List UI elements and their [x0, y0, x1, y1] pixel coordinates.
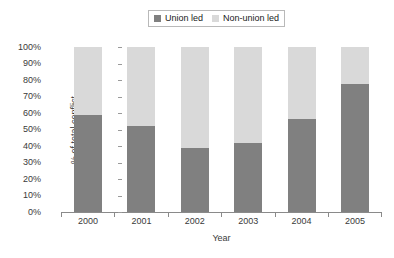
y-tick	[118, 80, 122, 81]
chart-figure: Union led Non-union led % of total confl…	[0, 0, 394, 258]
bar-segment-non-union-led	[234, 47, 262, 143]
bar-segment-union-led	[341, 84, 369, 212]
bar-segment-non-union-led	[181, 47, 209, 148]
bar-group	[181, 47, 209, 212]
y-tick-label: 10%	[1, 191, 41, 200]
y-tick-label: 40%	[1, 142, 41, 151]
y-tick	[118, 64, 122, 65]
y-tick	[118, 146, 122, 147]
bar-segment-non-union-led	[288, 47, 316, 119]
y-tick	[118, 163, 122, 164]
legend-item-union-led: Union led	[154, 14, 203, 23]
bar-segment-union-led	[288, 119, 316, 212]
legend-label-union-led: Union led	[165, 14, 203, 23]
x-axis-title: Year	[61, 233, 382, 243]
bar-group	[341, 47, 369, 212]
y-tick	[118, 179, 122, 180]
y-tick-label: 100%	[1, 43, 41, 52]
bar-segment-union-led	[127, 126, 155, 212]
y-tick-label: 50%	[1, 125, 41, 134]
x-tick-label: 2005	[328, 217, 382, 226]
bar-segment-non-union-led	[341, 47, 369, 84]
x-tick-label: 2000	[61, 217, 115, 226]
legend-item-non-union-led: Non-union led	[212, 14, 279, 23]
bar-segment-union-led	[74, 115, 102, 212]
bar-segment-non-union-led	[74, 47, 102, 115]
bar-group	[234, 47, 262, 212]
y-tick	[118, 212, 122, 213]
y-tick-label: 90%	[1, 59, 41, 68]
x-tick-label: 2002	[168, 217, 222, 226]
y-tick-label: 30%	[1, 158, 41, 167]
x-tick-label: 2003	[221, 217, 275, 226]
y-tick-label: 60%	[1, 109, 41, 118]
y-tick-label: 0%	[1, 208, 41, 217]
y-tick-label: 70%	[1, 92, 41, 101]
bar-group	[74, 47, 102, 212]
legend-swatch-non-union-led	[212, 15, 219, 22]
plot-area: % of total conflict 0%10%20%30%40%50%60%…	[61, 47, 381, 212]
y-tick	[118, 113, 122, 114]
bar-group	[127, 47, 155, 212]
y-tick-label: 80%	[1, 76, 41, 85]
y-tick	[118, 97, 122, 98]
chart-legend: Union led Non-union led	[148, 10, 285, 27]
x-tick-label: 2001	[114, 217, 168, 226]
x-tick-label: 2004	[275, 217, 329, 226]
y-tick	[118, 47, 122, 48]
bar-segment-union-led	[234, 143, 262, 212]
y-tick-label: 20%	[1, 175, 41, 184]
bar-segment-union-led	[181, 148, 209, 212]
y-tick	[118, 130, 122, 131]
legend-label-non-union-led: Non-union led	[223, 14, 279, 23]
legend-swatch-union-led	[154, 15, 161, 22]
y-tick	[118, 196, 122, 197]
bar-segment-non-union-led	[127, 47, 155, 126]
bar-group	[288, 47, 316, 212]
